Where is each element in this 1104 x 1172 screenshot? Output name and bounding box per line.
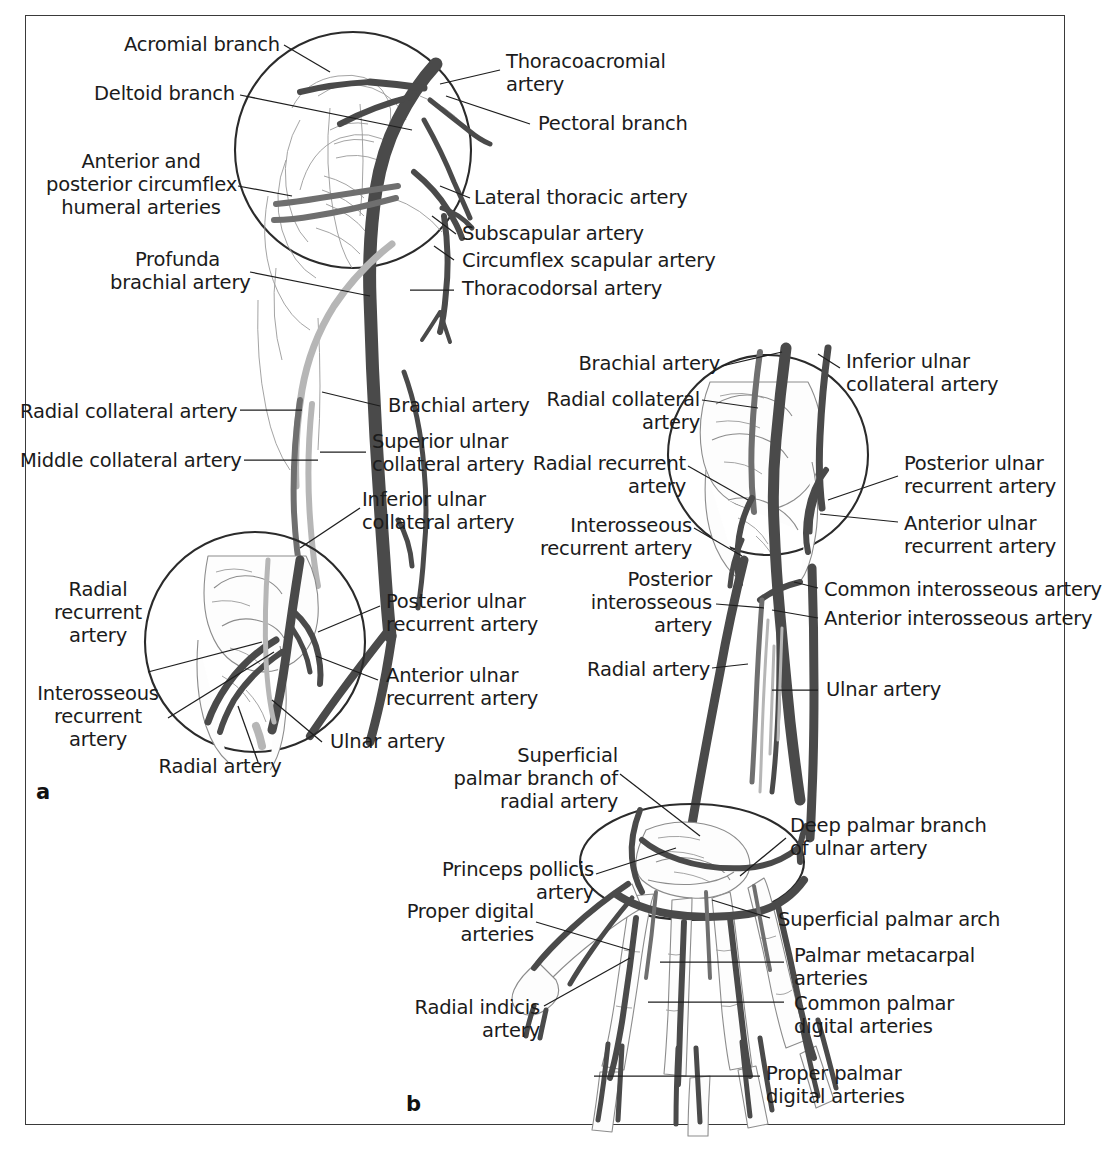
- label-radial-artery-a: Radial artery: [150, 755, 290, 778]
- label-radial-indicis-artery: Radial indicis artery: [382, 996, 540, 1042]
- label-superficial-palmar-arch: Superficial palmar arch: [778, 908, 1038, 931]
- label-radial-recurrent-artery-a: Radial recurrent artery: [48, 578, 148, 647]
- label-deep-palmar-branch-ulnar-artery: Deep palmar branch of ulnar artery: [790, 814, 1020, 860]
- label-proper-palmar-digital-arteries: Proper palmar digital arteries: [766, 1062, 986, 1108]
- label-anterior-interosseous-artery: Anterior interosseous artery: [824, 607, 1104, 630]
- label-middle-collateral-artery-a: Middle collateral artery: [20, 449, 235, 472]
- label-common-interosseous-artery: Common interosseous artery: [824, 578, 1104, 601]
- label-acromial-branch: Acromial branch: [80, 33, 280, 56]
- label-proper-digital-arteries: Proper digital arteries: [366, 900, 534, 946]
- label-pectoral-branch: Pectoral branch: [538, 112, 758, 135]
- label-interosseous-recurrent-artery-a: Interosseous recurrent artery: [28, 682, 168, 751]
- label-posterior-interosseous-artery: Posterior interosseous artery: [560, 568, 712, 637]
- label-brachial-artery-b: Brachial artery: [520, 352, 720, 375]
- label-radial-recurrent-artery-b: Radial recurrent artery: [520, 452, 686, 498]
- label-radial-artery-b: Radial artery: [540, 658, 710, 681]
- label-thoracodorsal-artery: Thoracodorsal artery: [462, 277, 722, 300]
- label-profunda-brachial-artery: Profunda brachial artery: [110, 248, 245, 294]
- label-interosseous-recurrent-artery-b: Interosseous recurrent artery: [520, 514, 692, 560]
- label-inferior-ulnar-collateral-artery-b: Inferior ulnar collateral artery: [846, 350, 1076, 396]
- label-radial-collateral-artery-b: Radial collateral artery: [520, 388, 700, 434]
- label-common-palmar-digital-arteries: Common palmar digital arteries: [794, 992, 1014, 1038]
- panel-b-caption: b: [406, 1092, 421, 1116]
- label-radial-collateral-artery-a: Radial collateral artery: [20, 400, 235, 423]
- label-superficial-palmar-branch-radial-artery: Superficial palmar branch of radial arte…: [406, 744, 618, 813]
- label-posterior-ulnar-recurrent-artery-b: Posterior ulnar recurrent artery: [904, 452, 1104, 498]
- label-circumflex-scapular-artery: Circumflex scapular artery: [462, 249, 742, 272]
- panel-a-caption: a: [36, 780, 50, 804]
- label-palmar-metacarpal-arteries: Palmar metacarpal arteries: [794, 944, 1014, 990]
- label-circumflex-humeral-arteries: Anterior and posterior circumflex humera…: [46, 150, 236, 219]
- label-deltoid-branch: Deltoid branch: [80, 82, 235, 105]
- label-lateral-thoracic-artery: Lateral thoracic artery: [474, 186, 734, 209]
- label-ulnar-artery-b: Ulnar artery: [826, 678, 1026, 701]
- label-thoracoacromial-artery: Thoracoacromial artery: [506, 50, 726, 96]
- label-anterior-ulnar-recurrent-artery-b: Anterior ulnar recurrent artery: [904, 512, 1104, 558]
- label-princeps-pollicis-artery: Princeps pollicis artery: [408, 858, 594, 904]
- label-subscapular-artery: Subscapular artery: [462, 222, 722, 245]
